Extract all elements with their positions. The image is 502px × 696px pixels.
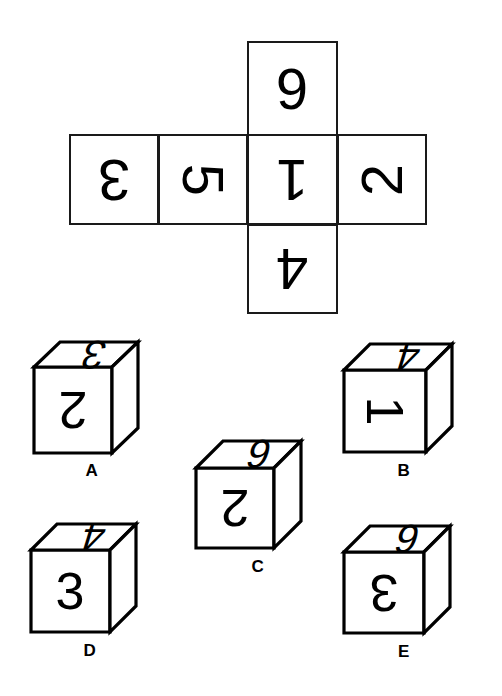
cube-b-drawing: 1 4 5 xyxy=(334,332,474,472)
net-cell-mid-left-value: 5 xyxy=(174,163,232,195)
cube-b-label: B xyxy=(334,461,474,481)
net-cell-bottom: 4 xyxy=(247,224,338,314)
cube-a-front-value: 2 xyxy=(59,381,88,439)
cube-d-front-value: 3 xyxy=(56,562,85,620)
net-cell-center: 1 xyxy=(247,134,338,225)
net-cell-right: 2 xyxy=(337,134,427,225)
net-cell-right-value: 2 xyxy=(353,163,411,195)
cube-option-d[interactable]: 3 4 2 D xyxy=(20,510,160,675)
cube-d-label: D xyxy=(20,641,160,661)
net-cell-mid-left: 5 xyxy=(158,134,248,225)
cube-option-c[interactable]: 2 6 3 C xyxy=(188,428,328,593)
cube-option-a[interactable]: 2 3 4 A xyxy=(22,330,162,495)
cube-d-drawing: 3 4 2 xyxy=(20,510,160,650)
cube-net: 6 3 5 1 2 4 xyxy=(0,0,502,330)
net-cell-center-value: 1 xyxy=(276,151,308,209)
net-cell-top: 6 xyxy=(247,41,338,136)
cube-e-label: E xyxy=(334,642,474,662)
net-cell-top-value: 6 xyxy=(276,60,308,118)
cube-a-label: A xyxy=(22,461,162,481)
net-cell-left: 3 xyxy=(69,134,159,225)
cube-c-drawing: 2 6 3 xyxy=(188,428,328,568)
cube-e-front-value: 3 xyxy=(370,564,399,622)
puzzle-canvas: 6 3 5 1 2 4 2 3 4 A xyxy=(0,0,502,696)
cube-c-label: C xyxy=(188,557,328,577)
cube-e-drawing: 3 6 5 xyxy=(334,512,474,652)
cube-b-front-value: 1 xyxy=(356,397,414,426)
net-cell-left-value: 3 xyxy=(98,151,130,209)
cube-c-front-value: 2 xyxy=(221,479,250,537)
cube-option-e[interactable]: 3 6 5 E xyxy=(334,512,474,677)
net-cell-bottom-value: 4 xyxy=(276,240,308,298)
cube-a-drawing: 2 3 4 xyxy=(22,330,162,470)
cube-option-b[interactable]: 1 4 5 B xyxy=(334,332,474,497)
